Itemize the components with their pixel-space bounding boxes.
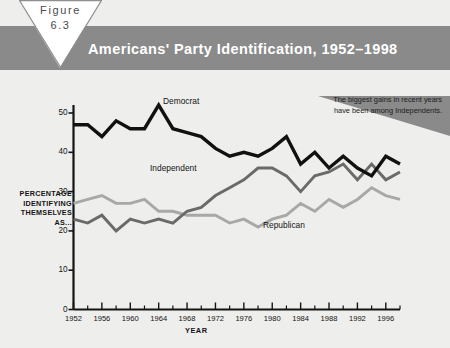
x-tick-label: 1964 (143, 314, 175, 323)
series-label-independent: Independent (150, 163, 197, 173)
x-tick-label: 1996 (370, 314, 402, 323)
y-tick-label: 50 (36, 108, 68, 117)
x-tick-label: 1992 (341, 314, 373, 323)
x-tick-label: 1952 (58, 314, 90, 323)
x-tick-label: 1972 (199, 314, 231, 323)
x-tick-label: 1956 (86, 314, 118, 323)
x-tick-label: 1960 (114, 314, 146, 323)
axes (74, 105, 401, 310)
chart-plot (0, 0, 450, 348)
x-tick-label: 1988 (313, 314, 345, 323)
y-tick-label: 10 (36, 265, 68, 274)
series-label-republican: Republican (263, 220, 305, 230)
x-tick-label: 1968 (171, 314, 203, 323)
series-label-democrat: Democrat (163, 96, 199, 106)
y-tick-label: 40 (36, 147, 68, 156)
x-tick-label: 1976 (228, 314, 260, 323)
y-axis-title: PERCENTAGE IDENTIFYING THEMSELVES AS... (14, 189, 72, 227)
y-tick-label: 0 (36, 305, 68, 314)
x-tick-label: 1984 (285, 314, 317, 323)
series-lines (74, 105, 401, 231)
figure-panel: Americans' Party Identification, 1952–19… (0, 0, 450, 348)
x-tick-label: 1980 (256, 314, 288, 323)
x-axis-title: YEAR (185, 326, 208, 335)
